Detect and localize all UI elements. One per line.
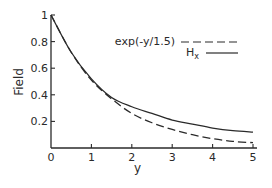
- y-tick-label: 0.6: [31, 62, 49, 75]
- y-tick-label: 0.8: [31, 36, 49, 49]
- x-tick-label: 1: [88, 151, 95, 164]
- x-tick-label: 5: [250, 151, 257, 164]
- x-tick-label: 4: [209, 151, 216, 164]
- y-tick-label: 0.2: [31, 115, 49, 128]
- x-tick-label: 3: [169, 151, 176, 164]
- y-tick-label: 0.4: [31, 89, 49, 102]
- y-axis-title: Field: [12, 68, 26, 96]
- x-tick-label: 0: [48, 151, 55, 164]
- axis-ticks: 0123450.20.40.60.81: [31, 9, 257, 164]
- legend: exp(-y/1.5) Hx: [115, 35, 238, 61]
- field-decay-chart: 0123450.20.40.60.81 y Field exp(-y/1.5) …: [0, 0, 272, 188]
- hx-curve: [51, 15, 253, 132]
- legend-label-hx: Hx: [186, 46, 199, 61]
- legend-label-exp: exp(-y/1.5): [115, 35, 175, 48]
- x-axis-title: y: [134, 161, 141, 175]
- y-tick-label: 1: [41, 9, 48, 22]
